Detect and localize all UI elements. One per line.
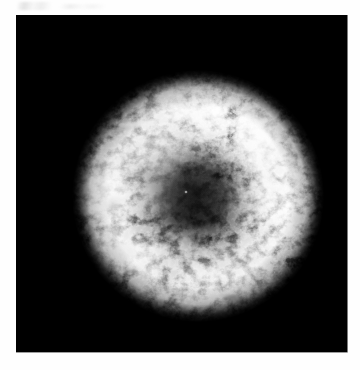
remnant-emission bbox=[16, 15, 348, 353]
panel-right-seam bbox=[347, 15, 348, 353]
scan-artifact-smudge-secondary bbox=[60, 4, 106, 9]
sw-bright-clump bbox=[113, 243, 135, 261]
figure-page: Grayscale astronomical image of a shell-… bbox=[0, 0, 360, 370]
north-knot-b bbox=[248, 110, 256, 116]
detached-southern-knot-b bbox=[235, 300, 245, 304]
panel-bottom-seam bbox=[16, 352, 348, 353]
central-point-source bbox=[185, 191, 188, 194]
w-bright-clump bbox=[103, 198, 121, 212]
figure-caption bbox=[0, 0, 1, 1]
supernova-remnant-image-panel: Grayscale astronomical image of a shell-… bbox=[16, 15, 348, 353]
interior-speckle bbox=[16, 15, 348, 353]
scan-artifact-smudge bbox=[17, 2, 51, 10]
remnant-canvas: Grayscale astronomical image of a shell-… bbox=[16, 15, 348, 353]
north-bright-knot bbox=[211, 107, 221, 115]
east-bright-knot bbox=[293, 213, 307, 225]
